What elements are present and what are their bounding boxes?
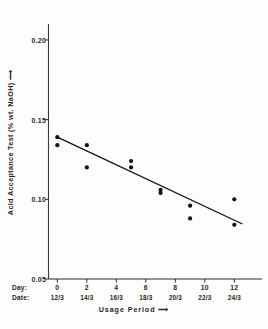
data-point-marker <box>188 204 192 208</box>
x-axis-day-label: 12 <box>230 284 238 291</box>
x-axis-day-label: 4 <box>114 284 118 291</box>
trend-line-segment <box>57 137 242 224</box>
x-axis-day-label: 6 <box>144 284 148 291</box>
x-axis-title: Usage Period ⟶ <box>0 305 268 314</box>
x-axis-date-label: 24/3 <box>228 294 241 301</box>
x-axis-date-label: 12/3 <box>51 294 64 301</box>
plot-area <box>0 0 268 329</box>
data-point-marker <box>85 165 89 169</box>
x-axis-day-label: 10 <box>201 284 209 291</box>
x-axis-date-row: Date: 12/314/316/318/320/322/324/3 <box>0 294 268 305</box>
trend-line <box>57 137 242 224</box>
x-axis-date-label: 20/3 <box>169 294 182 301</box>
x-axis-day-label: 0 <box>55 284 59 291</box>
chart-figure: Acid Acceptance Test (% wt. NaOH) ⟶ 0.05… <box>0 0 268 329</box>
data-point-marker <box>188 216 192 220</box>
data-point-marker <box>85 143 89 147</box>
x-axis-day-label: 2 <box>85 284 89 291</box>
x-axis-date-label: 22/3 <box>198 294 211 301</box>
axis-lines <box>49 24 263 279</box>
data-point-marker <box>232 223 236 227</box>
x-axis-date-label: 16/3 <box>110 294 123 301</box>
data-point-marker <box>232 197 236 201</box>
data-point-marker <box>55 135 59 139</box>
x-axis-day-label: 8 <box>173 284 177 291</box>
data-point-marker <box>129 159 133 163</box>
date-row-key: Date: <box>12 294 30 301</box>
x-axis-date-label: 18/3 <box>139 294 152 301</box>
data-point-marker <box>129 165 133 169</box>
x-axis-date-label: 14/3 <box>80 294 93 301</box>
data-point-marker <box>55 143 59 147</box>
day-row-key: Day: <box>12 284 27 291</box>
data-point-marker <box>158 191 162 195</box>
